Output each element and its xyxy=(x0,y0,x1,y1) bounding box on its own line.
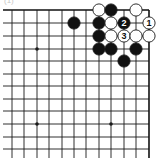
white-stone xyxy=(143,30,155,42)
white-stone xyxy=(130,4,142,16)
star-point xyxy=(109,122,113,126)
black-stone xyxy=(93,17,105,29)
white-stone xyxy=(105,17,117,29)
star-point xyxy=(35,47,39,51)
white-stone xyxy=(130,30,142,42)
white-stone xyxy=(105,30,117,42)
black-stone xyxy=(68,17,80,29)
black-stone xyxy=(105,4,117,16)
white-stone-move-1: 1 xyxy=(143,17,155,29)
black-stone xyxy=(118,55,130,67)
move-number: 2 xyxy=(121,18,126,28)
black-stone-move-2: 2 xyxy=(118,17,130,29)
black-stone xyxy=(93,30,105,42)
go-board: 213 xyxy=(0,0,159,162)
white-stone xyxy=(93,4,105,16)
move-number: 3 xyxy=(121,31,126,41)
black-stone xyxy=(130,43,142,55)
star-point xyxy=(35,122,39,126)
black-stone xyxy=(105,43,117,55)
stones: 213 xyxy=(68,4,155,67)
white-stone-move-3: 3 xyxy=(118,30,130,42)
move-number: 1 xyxy=(146,18,151,28)
black-stone xyxy=(93,43,105,55)
